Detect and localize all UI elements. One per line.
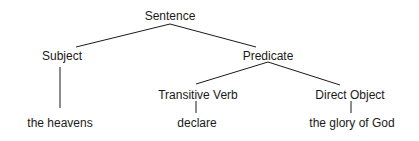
node-direct-object: Direct Object xyxy=(315,88,384,102)
edge-sentence-predicate xyxy=(170,24,256,47)
edge-predicate-object xyxy=(268,62,340,85)
syntax-tree-diagram: Sentence Subject Predicate Transitive Ve… xyxy=(0,0,419,141)
node-predicate: Predicate xyxy=(243,49,294,63)
node-transitive-verb: Transitive Verb xyxy=(158,88,238,102)
edge-sentence-subject xyxy=(76,24,170,47)
leaf-declare: declare xyxy=(177,116,216,130)
node-subject: Subject xyxy=(42,49,82,63)
leaf-the-glory-of-god: the glory of God xyxy=(309,116,394,130)
node-sentence: Sentence xyxy=(145,9,196,23)
edge-predicate-verb xyxy=(196,62,268,84)
leaf-the-heavens: the heavens xyxy=(27,116,92,130)
